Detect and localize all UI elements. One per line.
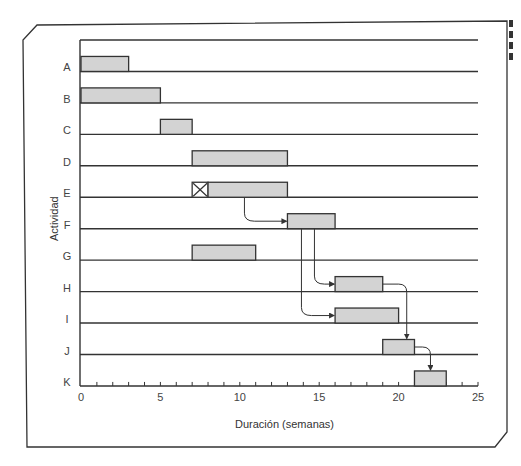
x-tick-label: 20 (389, 391, 409, 403)
task-bar-a (81, 56, 129, 71)
row-label-k: K (60, 376, 74, 388)
task-bar-i (335, 308, 399, 323)
task-bar-e (208, 182, 287, 197)
plot-area (80, 40, 478, 386)
row-label-a: A (60, 61, 74, 73)
y-axis-title: Actividad (48, 196, 60, 241)
row-label-g: G (60, 250, 74, 262)
x-tick-label: 0 (71, 391, 91, 403)
task-bar-h (335, 277, 383, 292)
row-label-e: E (60, 187, 74, 199)
task-bar-b (81, 88, 160, 103)
task-bar-d (192, 151, 287, 166)
dependency-arrow-f-i (301, 229, 334, 316)
task-bar-g (192, 245, 256, 260)
dependency-arrow-f-h (314, 229, 334, 284)
row-label-j: J (60, 345, 74, 357)
row-label-i: I (60, 313, 74, 325)
dependency-arrow-j-k (414, 347, 430, 370)
page-edge-marks (509, 20, 513, 64)
row-label-f: F (60, 219, 74, 231)
x-axis-title: Duración (semanas) (235, 418, 334, 430)
row-label-d: D (60, 156, 74, 168)
task-bar-f (287, 214, 335, 229)
task-bar-k (414, 371, 446, 386)
x-tick-label: 25 (468, 391, 488, 403)
x-tick-label: 15 (309, 391, 329, 403)
row-label-b: B (60, 93, 74, 105)
row-label-c: C (60, 124, 74, 136)
x-tick-label: 10 (230, 391, 250, 403)
dependency-arrow-e-f (244, 197, 286, 221)
x-tick-label: 5 (150, 391, 170, 403)
task-bar-c (160, 119, 192, 134)
task-bar-j (383, 340, 415, 355)
row-label-h: H (60, 282, 74, 294)
